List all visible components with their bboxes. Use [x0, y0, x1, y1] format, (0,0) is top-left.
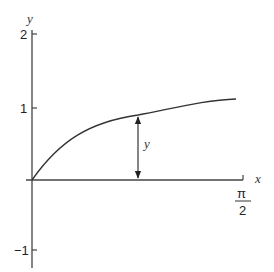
- chart: 2 1 −1 π 2 y x y: [0, 0, 274, 272]
- y-tick-label-2: 2: [20, 27, 27, 42]
- y-axis-label: y: [25, 11, 33, 26]
- x-tick-label-numerator: π: [237, 186, 246, 201]
- x-axis-label: x: [254, 171, 261, 186]
- y-tick-label-1: 1: [20, 101, 27, 116]
- y-annotation-label: y: [142, 136, 150, 151]
- x-tick-label-denominator: 2: [239, 203, 246, 218]
- curve-line: [32, 99, 236, 180]
- y-tick-label-neg1: −1: [14, 243, 29, 258]
